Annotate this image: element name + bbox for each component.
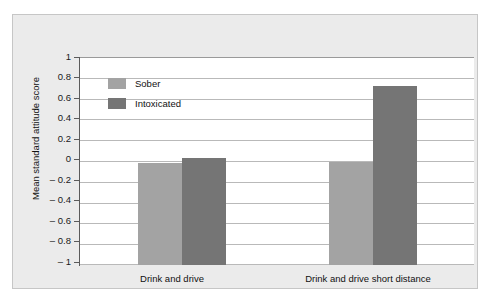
bar-sober-drink-and-drive-short-distance [329,162,373,265]
y-tick-label: – 0.8 [50,236,71,246]
legend-label: Intoxicated [135,98,181,109]
bar-intoxicated-drink-and-drive-short-distance [373,86,417,265]
legend-swatch-icon [108,78,126,89]
chart-legend: Sober Intoxicated [108,75,228,115]
y-tick-label: 0.2 [58,134,71,144]
legend-label: Sober [135,78,160,89]
y-tick-label: – 0.4 [50,195,71,205]
legend-item-sober: Sober [108,75,228,92]
y-tick-label: 0.8 [58,72,71,82]
y-tick-label: – 0.6 [50,216,71,226]
y-tick-label: 0.6 [58,93,71,103]
y-tick-label: – 0.2 [50,175,71,185]
x-axis-category-label-2: Drink and drive short distance [268,273,468,284]
y-axis-tick-labels: 1 0.8 0.6 0.4 0.2 0 – 0.2 – 0.4 – 0.6 – … [27,15,71,305]
x-axis-category-label-1: Drink and drive [77,273,267,284]
figure-panel: Mean standard attitude score 1 0.8 0.6 0… [12,14,478,289]
bar-intoxicated-drink-and-drive [182,158,226,265]
y-tick-label: – 1 [58,257,71,267]
gridline [80,57,474,58]
y-tick-label: 0.4 [58,113,71,123]
bar-sober-drink-and-drive [138,163,182,265]
chart-figure: Mean standard attitude score 1 0.8 0.6 0… [0,0,493,305]
y-tick-label: 0 [66,154,71,164]
y-tick-label: 1 [66,52,71,62]
legend-item-intoxicated: Intoxicated [108,95,228,112]
legend-swatch-icon [108,98,126,109]
